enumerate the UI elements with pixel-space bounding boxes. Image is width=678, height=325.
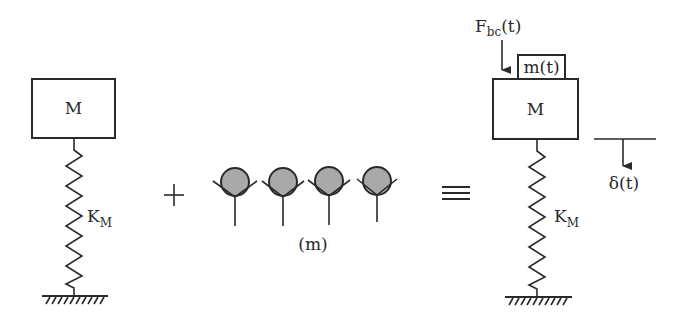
displacement-indicator: δ(t) <box>594 139 656 193</box>
left-mass-label: M <box>65 98 82 118</box>
particle-4 <box>357 167 397 222</box>
equivalence-operator <box>442 187 470 199</box>
right-mass-label: M <box>527 99 544 119</box>
right-ground <box>505 297 572 305</box>
particle-group: (m) <box>213 167 397 254</box>
force-label: Fbc(t) <box>475 16 521 39</box>
right-spring-constant-label: KM <box>554 206 579 230</box>
particle-3 <box>308 167 350 225</box>
spring-mass-equivalence-diagram: M KM (m) <box>0 0 678 325</box>
added-mass-label: m(t) <box>523 57 559 77</box>
particle-mass-label: (m) <box>298 234 327 254</box>
particle-1 <box>213 168 257 226</box>
left-spring-mass-system: M KM <box>32 79 115 304</box>
particle-2 <box>262 168 304 226</box>
plus-operator <box>164 184 184 206</box>
right-spring-mass-system: Fbc(t) m(t) M KM δ(t) <box>475 16 656 305</box>
right-spring <box>529 139 545 297</box>
displacement-label: δ(t) <box>609 173 639 193</box>
left-ground <box>42 296 108 304</box>
left-spring <box>66 138 82 296</box>
left-spring-constant-label: KM <box>87 206 112 230</box>
